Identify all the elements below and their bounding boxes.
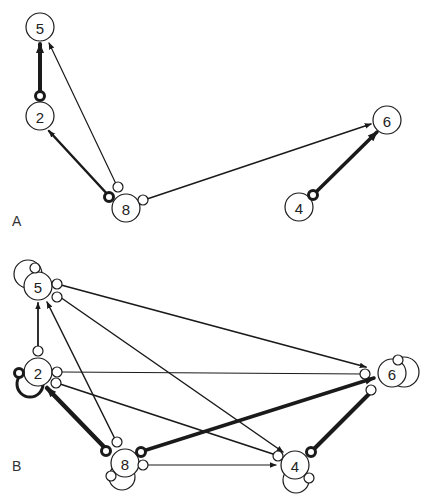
edge-port-open (33, 346, 43, 356)
panel-b: 52864B (12, 260, 419, 493)
edge-port-open (52, 292, 62, 302)
node-label-5: 5 (34, 279, 42, 296)
edge-4-to-6 (313, 132, 377, 195)
edge-port-open (112, 437, 122, 447)
edge-8-to-5 (49, 43, 117, 186)
node-label-4: 4 (291, 458, 299, 475)
edge-port-open (52, 279, 62, 289)
edge-8-to-6 (143, 378, 374, 451)
edge-port-open (113, 182, 123, 192)
panel-label-b: B (12, 458, 21, 474)
edge-5-to-4 (60, 297, 283, 452)
loop-port-5 (30, 263, 40, 273)
node-label-6: 6 (383, 113, 391, 130)
edge-2-to-6 (60, 372, 364, 374)
edge-end-port (273, 451, 283, 461)
loop-port-4 (304, 473, 314, 483)
edge-8-to-6 (144, 124, 371, 200)
loop-port-6 (393, 355, 403, 365)
edge-end-port (366, 385, 376, 395)
edge-port-bold (105, 193, 114, 202)
edge-end-port (360, 369, 370, 379)
node-label-2: 2 (34, 365, 42, 382)
edge-port-bold (309, 191, 318, 200)
edge-port-open (52, 367, 62, 377)
edge-8-to-2 (49, 131, 109, 196)
edge-port-bold (36, 92, 45, 101)
node-label-4: 4 (295, 200, 303, 217)
edge-port-bold (137, 448, 146, 457)
loop-port-8 (106, 471, 116, 481)
node-label-2: 2 (36, 109, 44, 126)
panel-a: 52864A (12, 13, 401, 229)
node-label-8: 8 (121, 456, 129, 473)
edge-port-open (138, 460, 148, 470)
node-label-5: 5 (36, 20, 44, 37)
node-label-8: 8 (122, 201, 130, 218)
edge-5-to-6 (61, 285, 366, 367)
panel-label-a: A (12, 213, 22, 229)
edge-port-bold (102, 447, 111, 456)
edge-4-to-6 (311, 393, 370, 452)
network-diagram: 52864A52864B (0, 0, 425, 499)
edge-port-open (51, 378, 61, 388)
loop-port-2 (15, 369, 24, 378)
edge-port-open (138, 195, 148, 205)
edge-port-bold (307, 448, 316, 457)
node-label-6: 6 (388, 366, 396, 383)
